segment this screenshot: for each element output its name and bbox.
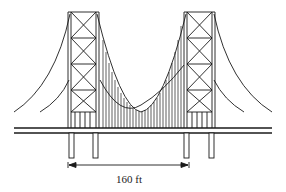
- left-side-cables: [14, 14, 70, 112]
- left-tower: [68, 12, 99, 128]
- dimension-label: 160 ft: [116, 173, 142, 185]
- bridge-diagram: 160 ft: [0, 0, 286, 192]
- bridge-deck: [14, 128, 272, 133]
- hangers: [103, 26, 181, 128]
- piers: [69, 133, 214, 158]
- right-side-cables: [214, 14, 272, 112]
- right-tower: [184, 12, 215, 128]
- dimension-arrow: [68, 162, 189, 168]
